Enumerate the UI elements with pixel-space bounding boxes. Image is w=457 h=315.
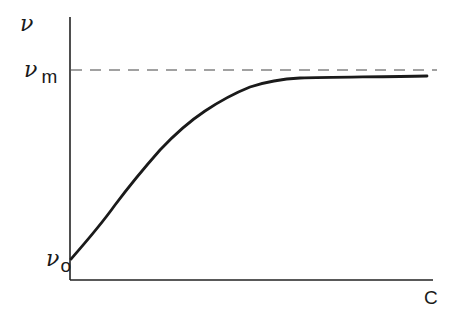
saturation-curve <box>71 76 427 259</box>
nu-o-label: νo <box>46 246 71 271</box>
nu-m-label: νm <box>24 57 57 82</box>
y-axis-label: ν <box>20 11 33 36</box>
x-axis-label: C <box>424 287 438 309</box>
nu-o-symbol: ν <box>46 246 59 271</box>
nu-m-subscript: m <box>41 66 57 87</box>
nu-m-symbol: ν <box>24 57 37 82</box>
nu-o-subscript: o <box>60 255 71 276</box>
